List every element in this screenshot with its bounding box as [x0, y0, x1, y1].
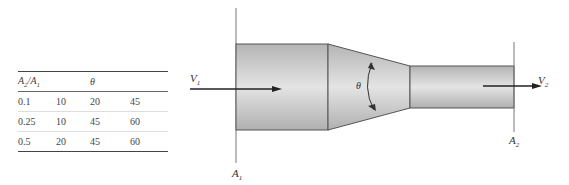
a1-label: A1 [232, 167, 242, 182]
outlet-pipe [410, 66, 514, 108]
theta-label: θ [356, 80, 361, 91]
v1-label: V1 [190, 72, 200, 87]
converging-cone [328, 44, 410, 130]
v2-label: V2 [538, 74, 548, 89]
inlet-pipe [236, 44, 328, 130]
a2-label: A2 [509, 134, 519, 149]
nozzle-diagram [0, 0, 569, 185]
